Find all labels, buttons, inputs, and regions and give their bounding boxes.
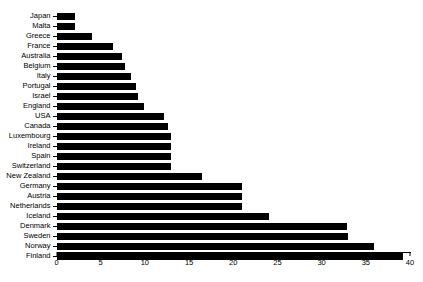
bar-row: Australia <box>57 52 411 62</box>
x-axis-tick-label: 15 <box>185 258 193 268</box>
bar-row: Greece <box>57 32 411 42</box>
bar <box>57 193 243 200</box>
bar <box>57 153 172 160</box>
x-axis-tick-label: 5 <box>99 258 103 268</box>
category-label: France <box>27 41 50 51</box>
bar <box>57 93 138 100</box>
bar <box>57 163 172 170</box>
x-axis-tick-label: 0 <box>54 258 58 268</box>
bar-row: Netherlands <box>57 202 411 212</box>
x-axis-tick <box>233 252 234 256</box>
category-label: Portugal <box>23 81 51 91</box>
x-axis-tick <box>100 252 101 256</box>
category-label: Norway <box>25 241 50 251</box>
bar <box>57 173 203 180</box>
category-label: Switzerland <box>12 161 51 171</box>
bar <box>57 243 374 250</box>
bar-row: France <box>57 42 411 52</box>
bar-row: Denmark <box>57 222 411 232</box>
bar <box>57 103 144 110</box>
category-label: Italy <box>37 71 51 81</box>
bar-row: Switzerland <box>57 162 411 172</box>
x-axis-tick-label: 10 <box>141 258 149 268</box>
bar <box>57 213 269 220</box>
bar-rows: JapanMaltaGreeceFranceAustraliaBelgiumIt… <box>57 12 411 252</box>
bar <box>57 183 243 190</box>
category-label: Malta <box>32 21 50 31</box>
bar-row: New Zealand <box>57 172 411 182</box>
bar <box>57 13 76 20</box>
bar <box>57 63 126 70</box>
bar-row: Japan <box>57 12 411 22</box>
category-label: Ireland <box>28 141 51 151</box>
bar <box>57 73 131 80</box>
x-axis-tick <box>144 252 145 256</box>
bar <box>57 23 76 30</box>
bar-row: Israel <box>57 92 411 102</box>
bar-chart: JapanMaltaGreeceFranceAustraliaBelgiumIt… <box>0 0 423 282</box>
bar-row: USA <box>57 112 411 122</box>
category-label: Greece <box>26 31 51 41</box>
category-label: Iceland <box>26 211 50 221</box>
category-label: Netherlands <box>10 201 50 211</box>
category-label: England <box>23 101 51 111</box>
bar-row: Austria <box>57 192 411 202</box>
x-axis-ticks: 0510152025303540 <box>57 252 411 276</box>
bar-row: Sweden <box>57 232 411 242</box>
bar-row: Malta <box>57 22 411 32</box>
bar <box>57 143 172 150</box>
bar <box>57 43 114 50</box>
category-label: Japan <box>30 11 50 21</box>
category-label: Finland <box>26 251 51 261</box>
x-axis-tick-label: 40 <box>406 258 414 268</box>
bar <box>57 123 168 130</box>
x-axis-tick-label: 30 <box>317 258 325 268</box>
bar-row: Germany <box>57 182 411 192</box>
bar-row: Norway <box>57 242 411 252</box>
bar-row: Belgium <box>57 62 411 72</box>
bar <box>57 53 122 60</box>
category-label: USA <box>35 111 50 121</box>
x-axis-tick <box>321 252 322 256</box>
category-label: Luxembourg <box>9 131 51 141</box>
bar <box>57 133 172 140</box>
bar <box>57 203 243 210</box>
bar-row: Italy <box>57 72 411 82</box>
category-label: Denmark <box>20 221 50 231</box>
bar-row: England <box>57 102 411 112</box>
x-axis-tick-label: 35 <box>362 258 370 268</box>
x-axis-tick <box>56 252 57 256</box>
bar-row: Spain <box>57 152 411 162</box>
bar-row: Luxembourg <box>57 132 411 142</box>
bar <box>57 83 137 90</box>
x-axis-tick-label: 25 <box>273 258 281 268</box>
category-label: Israel <box>32 91 50 101</box>
category-label: Germany <box>20 181 51 191</box>
category-label: Canada <box>24 121 50 131</box>
x-axis-tick <box>189 252 190 256</box>
x-axis-tick <box>277 252 278 256</box>
bar <box>57 223 348 230</box>
category-label: Austria <box>27 191 50 201</box>
bar-row: Portugal <box>57 82 411 92</box>
x-axis-tick <box>410 252 411 256</box>
category-label: Spain <box>31 151 50 161</box>
category-label: Belgium <box>23 61 50 71</box>
bar-row: Ireland <box>57 142 411 152</box>
category-label: New Zealand <box>6 171 50 181</box>
category-label: Australia <box>21 51 50 61</box>
bar-row: Iceland <box>57 212 411 222</box>
bar <box>57 33 92 40</box>
x-axis-tick <box>365 252 366 256</box>
bar-row: Canada <box>57 122 411 132</box>
plot-area: JapanMaltaGreeceFranceAustraliaBelgiumIt… <box>57 12 411 252</box>
bar <box>57 233 349 240</box>
x-axis-tick-label: 20 <box>229 258 237 268</box>
bar <box>57 113 165 120</box>
category-label: Sweden <box>23 231 50 241</box>
